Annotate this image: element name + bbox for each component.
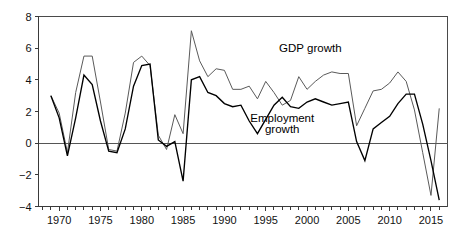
y-tick-label-0: −4 [19, 201, 32, 213]
annotation-employment-growth-2: growth [265, 123, 300, 135]
y-tick-label-4: 4 [25, 74, 31, 86]
data-series-lines [51, 31, 439, 200]
x-tick-label-8: 2010 [377, 214, 401, 226]
y-tick-label-2: 0 [25, 137, 31, 149]
y-tick-label-1: −2 [19, 169, 32, 181]
annotation-employment-growth-1: Employment [250, 112, 315, 124]
x-tick-label-5: 1995 [253, 214, 277, 226]
employment-growth-line [51, 64, 439, 200]
x-tick-label-9: 2015 [419, 214, 443, 226]
x-axis-tick-labels: 1970197519801985199019952000200520102015 [47, 214, 443, 226]
y-axis-ticks [35, 17, 39, 207]
y-tick-label-5: 6 [25, 42, 31, 54]
x-tick-label-3: 1985 [171, 214, 195, 226]
x-tick-label-1: 1975 [88, 214, 112, 226]
series-annotations: GDP growthEmploymentgrowth [250, 42, 341, 135]
x-tick-label-0: 1970 [47, 214, 71, 226]
y-tick-label-3: 2 [25, 106, 31, 118]
x-tick-label-2: 1980 [130, 214, 154, 226]
x-axis-ticks [43, 207, 440, 212]
plot-frame [39, 17, 448, 207]
growth-line-chart: −4−202468 197019751980198519901995200020… [0, 0, 464, 244]
chart-canvas: −4−202468 197019751980198519901995200020… [0, 0, 464, 244]
x-tick-label-6: 2000 [295, 214, 319, 226]
x-tick-label-7: 2005 [336, 214, 360, 226]
y-axis-tick-labels: −4−202468 [19, 11, 32, 213]
y-tick-label-6: 8 [25, 11, 31, 23]
annotation-gdp-growth-0: GDP growth [279, 42, 341, 54]
x-tick-label-4: 1990 [212, 214, 236, 226]
